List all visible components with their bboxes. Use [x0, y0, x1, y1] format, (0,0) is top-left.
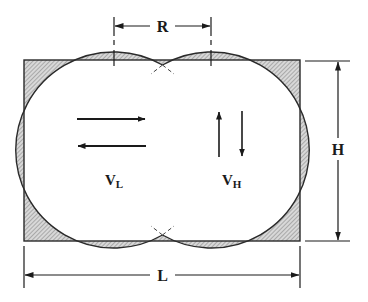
- label-h: H: [332, 141, 345, 158]
- label-l: L: [157, 267, 168, 284]
- overlapping-circles-diagram: R H L VL VH: [0, 0, 368, 302]
- label-r: R: [157, 18, 169, 35]
- hatched-circle-overflow-regions: [16, 52, 309, 248]
